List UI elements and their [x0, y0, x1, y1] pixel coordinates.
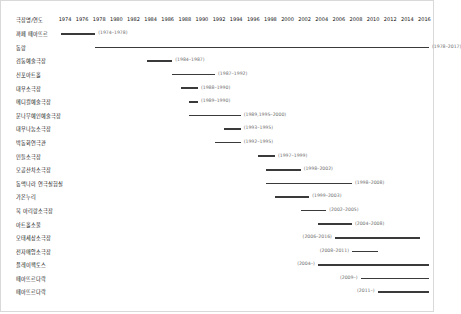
row-bar-area: (1999–2003): [61, 190, 429, 204]
timeline-row[interactable]: 민들소극장(1997–1999): [1, 149, 433, 163]
year-tick-1974: 1974: [59, 16, 72, 22]
row-label: 동맥나라 연극실험실: [16, 180, 63, 187]
row-bar-area: (1987–1992): [61, 68, 429, 82]
timeline-bar[interactable]: [378, 291, 429, 293]
timeline-bar[interactable]: [189, 115, 240, 117]
row-label: 북 아리랑소극장: [16, 207, 53, 214]
row-bar-area: (2011–): [61, 285, 429, 299]
row-bar-area: (1989,1995–2000): [61, 109, 429, 123]
year-tick-1994: 1994: [230, 16, 243, 22]
row-label: 민들소극장: [16, 153, 41, 160]
timeline-bar[interactable]: [335, 237, 421, 239]
timeline-row[interactable]: 까페 떼아뜨르(1974–1978): [1, 27, 433, 41]
bar-range-label: (1984–1987): [175, 57, 204, 62]
timeline-row[interactable]: 모공산차소극장(1998–2002): [1, 163, 433, 177]
year-tick-1984: 1984: [144, 16, 157, 22]
year-tick-2008: 2008: [350, 16, 363, 22]
year-tick-2010: 2010: [367, 16, 380, 22]
timeline-bar[interactable]: [147, 60, 173, 62]
timeline-row[interactable]: 동랑(1978–2017): [1, 41, 433, 55]
row-bar-area: (1988–1990): [61, 81, 429, 95]
year-tick-2000: 2000: [281, 16, 294, 22]
row-bar-area: (2008–2011): [61, 245, 429, 259]
year-tick-1996: 1996: [247, 16, 260, 22]
row-bar-area: (2004–): [61, 258, 429, 272]
timeline-bar[interactable]: [361, 278, 429, 280]
timeline-bar[interactable]: [266, 169, 300, 171]
timeline-row[interactable]: 떼아뜨르다락(2009–): [1, 272, 433, 286]
row-label: 모태세상소극장: [16, 234, 51, 241]
timeline-bar[interactable]: [258, 155, 275, 157]
timeline-row[interactable]: 메디컬예술극장(1989–1990): [1, 95, 433, 109]
row-label: 박동화연극관: [16, 139, 46, 146]
row-bar-area: (1974–1978): [61, 27, 429, 41]
year-tick-2014: 2014: [401, 16, 414, 22]
row-label: 떼아뜨르다락: [16, 288, 46, 295]
row-label: 검둥예술극장: [16, 57, 46, 64]
bar-range-label: (2008–2011): [320, 248, 349, 253]
bar-range-label: (1999–2003): [312, 193, 341, 198]
timeline-row[interactable]: 아트홀소울(2004–2008): [1, 217, 433, 231]
timeline-row[interactable]: 검둥예술극장(1984–1987): [1, 54, 433, 68]
row-label: 모공산차소극장: [16, 166, 51, 173]
row-bar-area: (1993–1995): [61, 122, 429, 136]
row-label: 아트홀소울: [16, 221, 41, 228]
bar-range-label: (2009–): [340, 275, 358, 280]
row-bar-area: (1989–1990): [61, 95, 429, 109]
timeline-bar[interactable]: [275, 196, 309, 198]
timeline-bar[interactable]: [61, 33, 95, 35]
row-label: 문나무예인예술극장: [16, 112, 61, 119]
row-bar-area: (1984–1987): [61, 54, 429, 68]
row-bar-area: (2006–2016): [61, 231, 429, 245]
timeline-row[interactable]: 가온누리(1999–2003): [1, 190, 433, 204]
timeline-bar[interactable]: [318, 223, 352, 225]
timeline-row[interactable]: 문나무예인예술극장(1989,1995–2000): [1, 109, 433, 123]
timeline-row[interactable]: 플레이팩토스(2004–): [1, 258, 433, 272]
bar-range-label: (1978–2017): [432, 44, 461, 49]
row-label: 대우나눔소극장: [16, 125, 51, 132]
year-tick-1988: 1988: [178, 16, 191, 22]
timeline-bar[interactable]: [172, 74, 215, 76]
timeline-chart-frame: 극장명/연도 197419761978198019821984198619881…: [0, 0, 434, 312]
timeline-row[interactable]: 신포아트홀(1987–1992): [1, 68, 433, 82]
timeline-row[interactable]: 대우나눔소극장(1993–1995): [1, 122, 433, 136]
row-label: 메디컬예술극장: [16, 98, 51, 105]
timeline-row[interactable]: 대우소극장(1988–1990): [1, 81, 433, 95]
row-bar-area: (2004–2008): [61, 217, 429, 231]
year-tick-1980: 1980: [110, 16, 123, 22]
timeline-row[interactable]: 북 아리랑소극장(2002–2005): [1, 204, 433, 218]
row-label: 플레이팩토스: [16, 261, 46, 268]
bar-range-label: (1987–1992): [218, 71, 247, 76]
year-tick-1986: 1986: [161, 16, 174, 22]
row-label: 동랑: [16, 44, 26, 51]
timeline-row[interactable]: 모태세상소극장(2006–2016): [1, 231, 433, 245]
bar-range-label: (1992–1995): [244, 139, 273, 144]
row-label: 신포아트홀: [16, 71, 41, 78]
bar-range-label: (2006–2016): [303, 234, 332, 239]
timeline-bar[interactable]: [95, 47, 429, 49]
row-label: 전자매암소극장: [16, 248, 51, 255]
row-bar-area: (2009–): [61, 272, 429, 286]
timeline-bar[interactable]: [181, 87, 198, 89]
timeline-row[interactable]: 떼아뜨르다락(2011–): [1, 285, 433, 299]
timeline-row[interactable]: 박동화연극관(1992–1995): [1, 136, 433, 150]
year-tick-2012: 2012: [384, 16, 397, 22]
year-tick-1998: 1998: [264, 16, 277, 22]
axis-corner-label: 극장명/연도: [16, 16, 43, 23]
timeline-bar[interactable]: [215, 142, 241, 144]
chart-header: 극장명/연도 197419761978198019821984198619881…: [1, 1, 433, 15]
year-tick-2016: 2016: [418, 16, 431, 22]
timeline-bar[interactable]: [301, 210, 327, 212]
bar-range-label: (2002–2005): [329, 207, 358, 212]
row-bar-area: (1998–2008): [61, 177, 429, 191]
timeline-row[interactable]: 동맥나라 연극실험실(1998–2008): [1, 177, 433, 191]
timeline-row[interactable]: 전자매암소극장(2008–2011): [1, 245, 433, 259]
year-tick-2006: 2006: [332, 16, 345, 22]
timeline-bar[interactable]: [266, 183, 352, 185]
timeline-bar[interactable]: [318, 264, 429, 266]
year-tick-1976: 1976: [76, 16, 89, 22]
timeline-bar[interactable]: [224, 128, 241, 130]
timeline-bar[interactable]: [189, 101, 198, 103]
timeline-bar[interactable]: [352, 251, 378, 253]
year-tick-2002: 2002: [298, 16, 311, 22]
